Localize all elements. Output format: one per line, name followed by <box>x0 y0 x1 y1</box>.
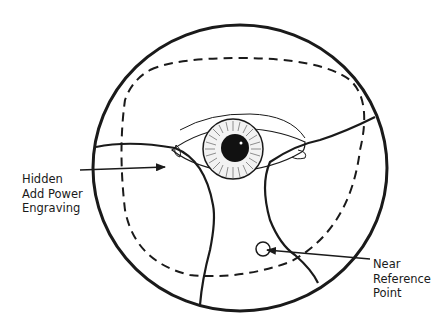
label-line: Engraving <box>22 201 83 216</box>
label-line: Point <box>373 286 431 301</box>
near-reference-point-label: Near Reference Point <box>373 257 431 301</box>
near-reference-arrow <box>267 250 370 259</box>
pupil-highlight <box>240 142 243 145</box>
hidden-add-power-label: Hidden Add Power Engraving <box>22 172 83 216</box>
label-line: Hidden <box>22 172 83 187</box>
pupil <box>221 134 249 162</box>
label-line: Near <box>373 257 431 272</box>
label-line: Add Power <box>22 187 83 202</box>
outer-canthus <box>292 150 306 159</box>
label-line: Reference <box>373 272 431 287</box>
near-reference-circle <box>256 242 270 256</box>
